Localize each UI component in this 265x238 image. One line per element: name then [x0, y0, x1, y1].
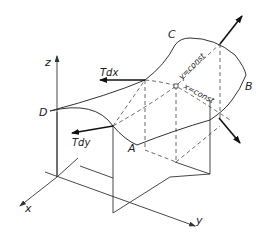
tdy-arrow: [72, 126, 113, 133]
x-const-label: x=const: [181, 81, 216, 105]
corner-label-a: A: [127, 142, 136, 155]
force-arrows: [72, 16, 242, 143]
projection-lines-solid: [57, 100, 210, 213]
normal-arrow-bottom: [219, 118, 240, 143]
x-axis-back: [57, 158, 78, 177]
edge-D-to-C: [50, 38, 190, 111]
coordinate-axes: [20, 56, 195, 226]
corner-label-d: D: [39, 106, 47, 119]
edge-D-to-A: [50, 108, 137, 145]
x-axis-label: x: [24, 202, 32, 215]
corner-label-c: C: [168, 28, 176, 41]
diagram-canvas: z x y D C B A Tdx Tdy y=const x=const: [0, 0, 265, 238]
tdx-label: Tdx: [100, 67, 118, 78]
edge-A-to-B: [137, 100, 232, 145]
y-const-label: y=const: [176, 51, 207, 82]
intersection-point: [174, 84, 178, 88]
y-axis-label: y: [195, 214, 203, 227]
y-axis: [45, 172, 195, 226]
tdy-label: Tdy: [72, 137, 91, 148]
z-axis-label: z: [44, 56, 51, 69]
normal-arrow-top: [220, 16, 242, 44]
surface-tension-diagram: z x y D C B A Tdx Tdy y=const x=const: [0, 0, 265, 238]
corner-label-b: B: [245, 80, 253, 93]
